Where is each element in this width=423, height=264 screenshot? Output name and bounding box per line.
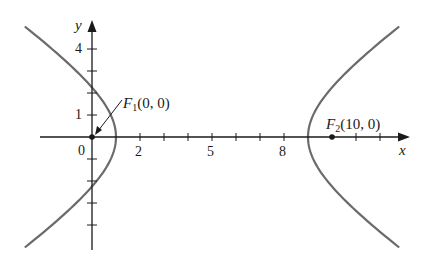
hyperbola-plot: x y 0 2 5 8 1 4 F1(0, 0) F2(10, 0) — [0, 0, 423, 264]
origin-label: 0 — [78, 143, 85, 158]
focus-f1-label: F1(0, 0) — [122, 95, 170, 113]
x-axis-arrow-icon — [398, 133, 410, 142]
focus-f1: F1(0, 0) — [89, 95, 169, 140]
focus-f2: F2(10, 0) — [325, 116, 380, 140]
y-axis-arrow-icon — [88, 20, 97, 32]
focus-f2-label: F2(10, 0) — [325, 116, 380, 134]
focus-f2-point — [329, 134, 335, 140]
x-tick-label-8: 8 — [279, 144, 286, 159]
focus-f1-point — [89, 134, 95, 140]
y-tick-label-1: 1 — [75, 107, 82, 122]
x-tick-label-2: 2 — [135, 144, 142, 159]
x-tick-label-5: 5 — [207, 144, 214, 159]
hyperbola-figure: x y 0 2 5 8 1 4 F1(0, 0) F2(10, 0) — [0, 0, 423, 264]
y-axis-label: y — [73, 17, 82, 33]
y-tick-label-4: 4 — [75, 41, 82, 56]
x-axis-label: x — [398, 142, 406, 158]
